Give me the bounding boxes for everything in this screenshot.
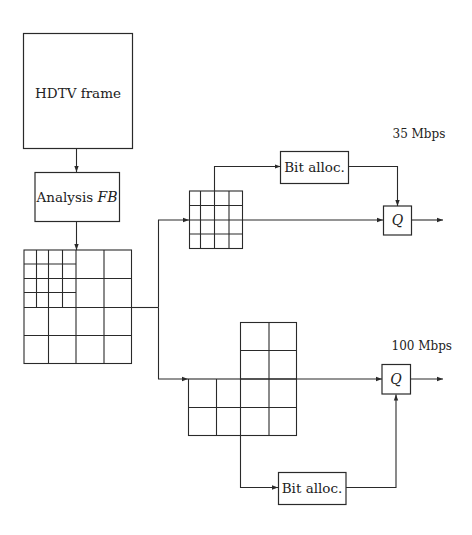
rate-top-label: 35 Mbps bbox=[393, 127, 446, 141]
subband-decomposition-grid bbox=[24, 250, 132, 364]
quantizer-bottom-block: Q bbox=[382, 365, 411, 395]
hdtv-frame-label: HDTV frame bbox=[35, 85, 121, 101]
analysis-fb-label: Analysis FB bbox=[36, 189, 118, 205]
bit-alloc-bottom-block: Bit alloc. bbox=[279, 473, 347, 505]
bit-alloc-bottom-label: Bit alloc. bbox=[282, 480, 343, 496]
wire-bit-alloc-to-quantizer-bottom bbox=[346, 395, 396, 488]
quantizer-bottom-label: Q bbox=[390, 371, 402, 387]
analysis-fb-label-math: FB bbox=[96, 189, 117, 205]
wire-branch-to-low-band bbox=[159, 220, 190, 308]
high-band-grid bbox=[189, 323, 297, 436]
wire-bit-alloc-to-quantizer-top bbox=[349, 167, 398, 207]
subband-coding-diagram: HDTV frame Analysis FB bbox=[0, 0, 472, 535]
quantizer-top-label: Q bbox=[392, 212, 404, 228]
analysis-filterbank-block: Analysis FB bbox=[35, 173, 120, 222]
bit-alloc-top-block: Bit alloc. bbox=[281, 152, 349, 184]
analysis-fb-label-prefix: Analysis bbox=[36, 189, 98, 205]
wire-low-band-to-bit-alloc bbox=[215, 167, 281, 192]
bit-alloc-top-label: Bit alloc. bbox=[284, 159, 345, 175]
quantizer-top-block: Q bbox=[384, 206, 412, 235]
hdtv-frame-block: HDTV frame bbox=[24, 34, 133, 149]
wire-branch-to-high-band bbox=[159, 308, 189, 380]
rate-bottom-label: 100 Mbps bbox=[392, 339, 453, 353]
wire-high-band-to-bit-alloc bbox=[241, 436, 279, 488]
low-band-grid bbox=[190, 191, 243, 249]
